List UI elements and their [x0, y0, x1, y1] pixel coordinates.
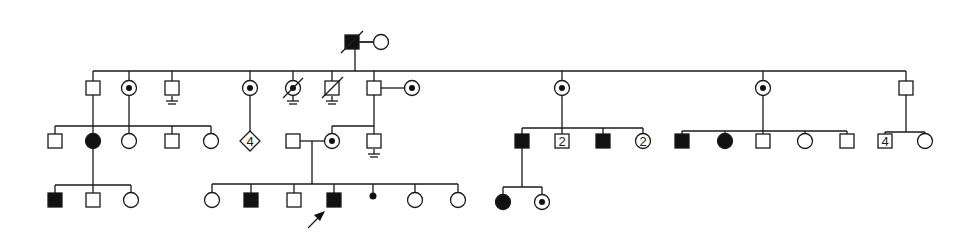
individual-III-5-female	[204, 134, 219, 149]
individual-III-19-female	[918, 134, 933, 149]
individual-IV-12-carrier-female	[535, 195, 550, 210]
individual-IV-7-proband-affected-male	[327, 193, 341, 207]
individual-III-4-male	[165, 134, 179, 148]
individual-IV-11-affected-female	[496, 195, 511, 210]
individual-III-18-male-group: 4	[878, 134, 892, 149]
individual-II-8-carrier-female	[555, 81, 570, 96]
count-label: 4	[246, 134, 253, 149]
individual-III-13-affected-male	[675, 134, 689, 148]
individual-III-10-male-group: 2	[555, 134, 569, 149]
individual-I-2-female	[374, 35, 389, 50]
individual-III-7-spouse-male	[286, 134, 300, 148]
individual-IV-9-female	[408, 193, 423, 208]
individual-III-14-affected-female	[718, 134, 733, 149]
relationship-lines	[55, 42, 925, 195]
individual-III-16-female	[798, 134, 813, 149]
individual-II-1-male	[86, 81, 100, 95]
individual-III-6-unknown-sex-group: 4	[240, 131, 260, 151]
individual-III-9-affected-male	[515, 134, 529, 148]
individual-II-3-male	[165, 81, 179, 95]
individual-III-12-female-group: 2	[636, 134, 651, 150]
individual-IV-1-affected-male	[48, 193, 62, 207]
individual-IV-8-miscarriage	[370, 193, 377, 200]
individual-III-1-male	[48, 134, 62, 148]
generation-4	[48, 193, 550, 229]
proband-arrow-icon	[308, 211, 325, 228]
generation-3: 4 2 2 4	[48, 131, 933, 151]
individual-II-7-spouse-carrier-female	[405, 81, 420, 96]
individual-II-10-male	[899, 81, 913, 95]
individual-III-15-male	[756, 134, 770, 148]
individual-III-17-male	[840, 134, 854, 148]
count-label: 4	[881, 134, 888, 149]
individual-III-11-affected-male	[596, 134, 610, 148]
individual-IV-2-male	[86, 193, 100, 207]
count-label: 2	[639, 134, 646, 149]
pedigree-chart: 4 2 2 4	[0, 0, 969, 240]
individual-II-5-deceased-carrier-female	[283, 78, 303, 98]
count-label: 2	[558, 134, 565, 149]
individual-III-2-affected-female	[86, 134, 101, 149]
individual-IV-5-affected-male	[244, 193, 258, 207]
individual-III-7-carrier-female	[325, 134, 340, 149]
individual-III-3-female	[122, 134, 137, 149]
individual-IV-4-female	[205, 193, 220, 208]
individual-IV-6-male	[287, 193, 301, 207]
individual-III-8-male	[367, 134, 381, 148]
individual-IV-3-female	[124, 193, 139, 208]
individual-IV-10-female	[451, 193, 466, 208]
individual-II-7-male	[367, 81, 381, 95]
individual-II-4-carrier-female	[243, 81, 258, 96]
generation-2	[86, 77, 913, 98]
individual-II-9-carrier-female	[756, 81, 771, 96]
individual-II-2-carrier-female	[122, 81, 137, 96]
